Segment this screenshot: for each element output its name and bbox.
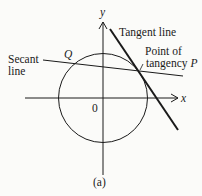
- point-q-label: Q: [64, 48, 73, 60]
- point-of-tangency-label-line1: Point of: [145, 45, 182, 57]
- tangent-secant-diagram: y x 0 Tangent line Point of tangency P Q…: [0, 0, 202, 196]
- x-axis-label: x: [180, 92, 187, 104]
- secant-label-line2: line: [8, 65, 25, 77]
- origin-label: 0: [92, 102, 98, 114]
- tangent-line-label: Tangent line: [119, 26, 176, 39]
- tangency-pointer: [140, 64, 143, 70]
- point-p-label: P: [189, 57, 197, 69]
- secant-label-line1: Secant: [8, 53, 39, 65]
- figure-caption: (a): [93, 176, 106, 189]
- point-of-tangency-label-line2: tangency P: [146, 57, 197, 70]
- y-axis-label: y: [99, 6, 106, 19]
- tangency-word: tangency: [146, 57, 188, 70]
